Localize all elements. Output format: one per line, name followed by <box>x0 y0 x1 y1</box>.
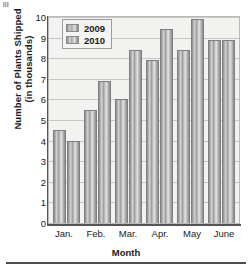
x-axis-line <box>47 224 241 226</box>
bar-2009-mar <box>115 99 128 223</box>
x-axis-tick-jan: Jan. <box>48 228 80 239</box>
bottom-divider <box>6 262 246 264</box>
x-axis-title: Month <box>0 247 252 258</box>
x-axis-tick-june: June <box>208 228 240 239</box>
y-axis-tick-9: 9 <box>26 32 46 43</box>
bar-2009-apr <box>146 60 159 223</box>
x-axis-tick-apr: Apr. <box>144 228 176 239</box>
bar-2009-jan <box>53 130 66 223</box>
bar-2010-may <box>191 19 204 223</box>
legend-swatch-icon-2009 <box>66 24 79 32</box>
bar-2010-mar <box>129 50 142 223</box>
bar-group-may <box>177 17 204 223</box>
y-axis-tick-0: 0 <box>26 218 46 229</box>
y-axis-tick-labels: 012345678910 <box>26 16 46 224</box>
x-axis-tick-feb: Feb. <box>80 228 112 239</box>
y-axis-title-line-1: Number of Plants Shipped <box>12 0 23 154</box>
y-axis-tick-1: 1 <box>26 197 46 208</box>
legend-label-2010: 2010 <box>84 35 105 46</box>
bar-2010-jan <box>67 141 80 223</box>
bar-chart-figure: Number of Plants Shipped (in thousands) … <box>0 0 252 269</box>
bar-2010-apr <box>160 29 173 223</box>
legend-item-2009: 2009 <box>66 22 105 34</box>
y-axis-tick-10: 10 <box>26 12 46 23</box>
bar-group-mar <box>115 17 142 223</box>
bar-2009-feb <box>84 110 97 223</box>
bar-2010-feb <box>98 81 111 223</box>
y-axis-tick-7: 7 <box>26 73 46 84</box>
bar-2010-june <box>222 40 235 223</box>
y-axis-tick-8: 8 <box>26 53 46 64</box>
x-axis-tick-may: May <box>176 228 208 239</box>
bar-group-apr <box>146 17 173 223</box>
legend-swatch-icon-2010 <box>66 36 79 44</box>
bar-2009-june <box>208 40 221 223</box>
bar-2009-may <box>177 50 190 223</box>
bar-group-june <box>208 17 235 223</box>
legend-label-2009: 2009 <box>84 23 105 34</box>
corner-artifact-icon <box>3 2 9 7</box>
y-axis-tick-5: 5 <box>26 115 46 126</box>
y-axis-tick-6: 6 <box>26 94 46 105</box>
legend: 2009 2010 <box>62 19 112 49</box>
x-axis-tick-labels: Jan.Feb.Mar.Apr.MayJune <box>48 228 240 239</box>
y-axis-tick-3: 3 <box>26 156 46 167</box>
y-axis-tick-4: 4 <box>26 135 46 146</box>
legend-item-2010: 2010 <box>66 34 105 46</box>
y-axis-tick-2: 2 <box>26 176 46 187</box>
x-axis-tick-mar: Mar. <box>112 228 144 239</box>
